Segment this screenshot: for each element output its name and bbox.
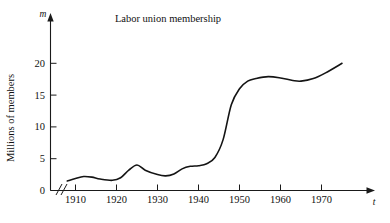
x-tick-label-1910: 1910 <box>65 194 86 205</box>
y-axis <box>47 13 53 191</box>
chart-canvas: 0 5 10 15 20 1910 1920 1930 1940 1950 19… <box>0 0 390 223</box>
x-axis-tick-labels: 1910 1920 1930 1940 1950 1960 1970 <box>65 194 332 205</box>
data-series-line <box>67 63 342 181</box>
x-tick-label-1940: 1940 <box>188 194 209 205</box>
chart-figure: 0 5 10 15 20 1910 1920 1930 1940 1950 19… <box>0 0 390 223</box>
y-axis-title: Millions of members <box>5 74 16 162</box>
y-axis-ticks <box>51 63 57 190</box>
x-tick-label-1960: 1960 <box>270 194 291 205</box>
y-tick-label-15: 15 <box>35 90 46 101</box>
x-axis-arrowhead <box>367 187 376 193</box>
x-tick-label-1930: 1930 <box>147 194 168 205</box>
x-axis-variable-label: t <box>373 197 376 207</box>
x-axis <box>51 187 376 193</box>
x-tick-label-1970: 1970 <box>311 194 332 205</box>
y-axis-arrowhead <box>47 13 53 22</box>
y-tick-label-10: 10 <box>35 121 46 132</box>
y-axis-variable-label: m <box>40 9 47 19</box>
x-tick-label-1950: 1950 <box>229 194 250 205</box>
y-axis-tick-labels: 0 5 10 15 20 <box>35 58 46 196</box>
x-axis-ticks <box>76 185 322 191</box>
y-tick-label-20: 20 <box>35 58 46 69</box>
y-tick-label-0: 0 <box>40 185 45 196</box>
x-tick-label-1920: 1920 <box>106 194 127 205</box>
chart-title: Labor union membership <box>115 13 221 24</box>
y-tick-label-5: 5 <box>40 153 45 164</box>
